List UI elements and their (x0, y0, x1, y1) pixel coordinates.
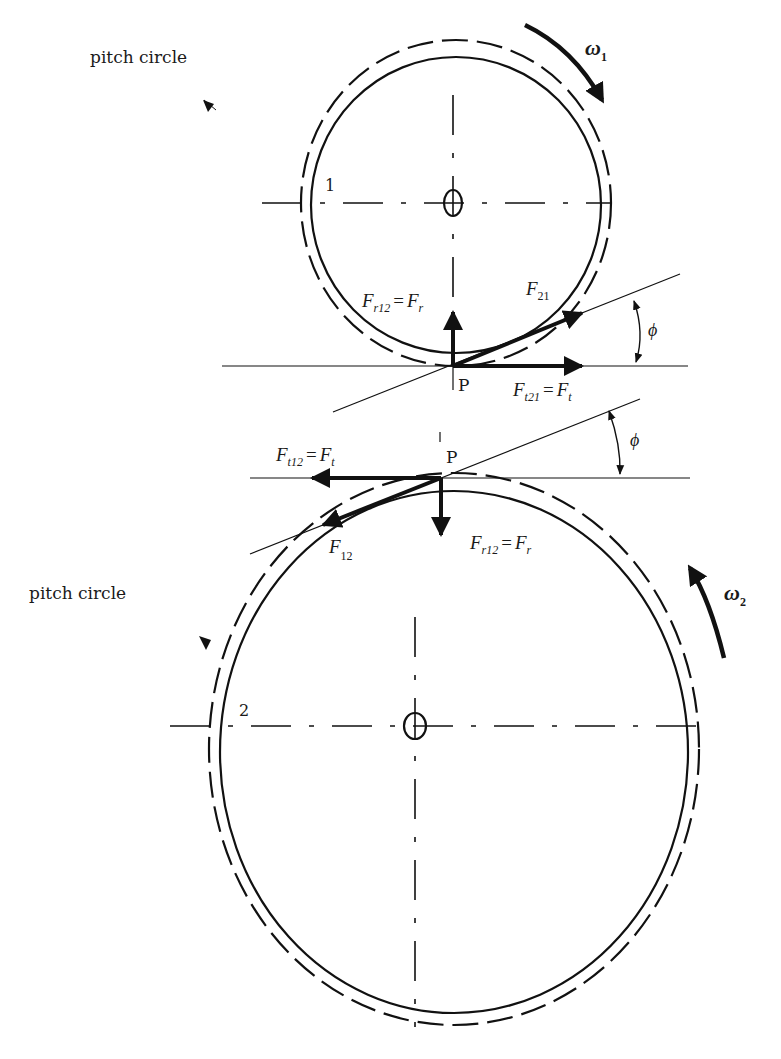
gear-2-body-circle (220, 491, 688, 1013)
gear-force-diagram: 1 pitch circle ω1 ϕ Fr12=Fr F21 Ft21=Ft … (0, 0, 781, 1059)
gear-1-omega-label: ω1 (585, 35, 607, 64)
gear-2-resultant-force-arrow (323, 478, 441, 525)
gear-2-pitch-point-label: P (446, 447, 457, 467)
gear-2-radial-force-label: Fr12=Fr (469, 532, 532, 557)
gear-2-pressure-angle-label: ϕ (630, 430, 639, 450)
gear-1-radial-force-label: Fr12=Fr (361, 290, 424, 315)
gear-1-resultant-force-label: F21 (525, 278, 550, 303)
gear-2-pressure-angle-arc (609, 411, 620, 474)
gear-1-pressure-angle-label: ϕ (648, 320, 657, 340)
gear-2-resultant-force-label: F12 (328, 536, 353, 563)
gear-1-body-circle (311, 57, 601, 353)
gear-1-tangential-force-label: Ft21=Ft (512, 379, 572, 404)
gear-2-tangential-force-label: Ft12=Ft (275, 444, 335, 469)
gear-1-pressure-angle-arc (634, 301, 640, 362)
gear-1-number-label: 1 (325, 176, 335, 195)
gear-2-omega-arrow-icon (690, 568, 724, 658)
gear-2: 2 pitch circle ω2 ϕ Ft12=Ft P F12 Fr12=F… (29, 399, 746, 1027)
gear-2-pitch-circle-label: pitch circle (29, 583, 126, 603)
gear-1-resultant-force-arrow (453, 313, 582, 366)
gear-1: 1 pitch circle ω1 ϕ Fr12=Fr F21 Ft21=Ft … (90, 25, 688, 412)
gear-1-pitch-point-label: P (458, 375, 469, 395)
gear-1-pitch-pointer-arrowhead (203, 100, 214, 112)
gear-2-pitch-circle (209, 473, 699, 1025)
gear-2-number-label: 2 (239, 701, 249, 720)
gear-1-pitch-circle-label: pitch circle (90, 47, 187, 67)
gear-2-omega-label: ω2 (724, 580, 746, 609)
gear-2-pressure-line (250, 399, 640, 554)
gear-2-pitch-pointer-arrowhead (199, 636, 211, 650)
